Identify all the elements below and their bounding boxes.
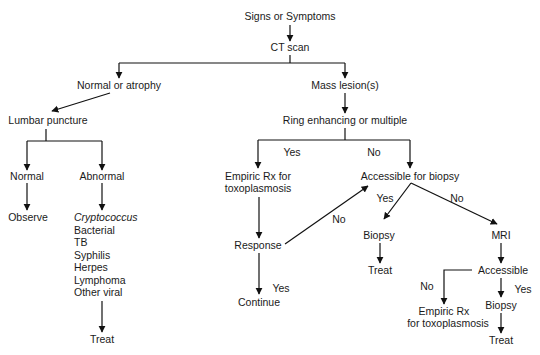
node-lp-abnormal: Abnormal [80,170,125,182]
node-lumbar-puncture: Lumbar puncture [8,114,88,126]
node-ring-enhancing: Ring enhancing or multiple [283,114,407,126]
node-mass-lesion: Mass lesion(s) [311,79,379,91]
cause-bacterial: Bacterial [74,224,115,236]
node-treat-1: Treat [368,264,392,276]
node-empiric-rx-2-line2: for toxoplasmosis [407,317,489,329]
cause-herpes: Herpes [74,261,108,273]
edge-label-access-yes: Yes [376,192,393,204]
cause-lymphoma: Lymphoma [74,274,126,286]
node-empiric-rx-1-line1: Empiric Rx for [225,170,291,182]
edge-label-mri-access-yes: Yes [514,283,531,295]
node-ct-scan: CT scan [271,41,310,53]
node-empiric-rx-2-line1: Empiric Rx [419,305,471,317]
edge-label-ring-yes: Yes [283,146,300,158]
cause-other-viral: Other viral [74,286,122,298]
node-signs-symptoms: Signs or Symptoms [244,10,335,22]
node-accessible: Accessible [478,264,528,276]
node-normal-atrophy: Normal or atrophy [77,79,162,91]
node-response: Response [234,239,281,251]
node-continue: Continue [238,296,280,308]
edge-label-access-no: No [450,192,464,204]
edge-label-response-no: No [332,213,346,225]
flowchart: Signs or Symptoms CT scan Normal or atro… [0,0,540,355]
cause-tb: TB [74,236,87,248]
node-treat-lp: Treat [90,333,114,345]
arrow-response-no [285,186,368,244]
arrow-accessible-no [444,270,472,304]
node-accessible-for-biopsy: Accessible for biopsy [361,170,460,182]
node-lp-normal: Normal [10,170,44,182]
node-biopsy-2: Biopsy [485,299,517,311]
edge-label-ring-no: No [367,146,381,158]
node-empiric-rx-1-line2: toxoplasmosis [225,182,292,194]
cause-cryptococcus: Cryptococcus [74,211,138,223]
node-biopsy-1: Biopsy [363,229,395,241]
arrow-normal-lp [52,93,110,111]
node-observe: Observe [8,211,48,223]
node-mri: MRI [491,229,510,241]
edge-label-response-yes: Yes [272,282,289,294]
cause-syphilis: Syphilis [74,249,110,261]
edge-label-mri-access-no: No [420,280,434,292]
node-treat-2: Treat [489,334,513,346]
